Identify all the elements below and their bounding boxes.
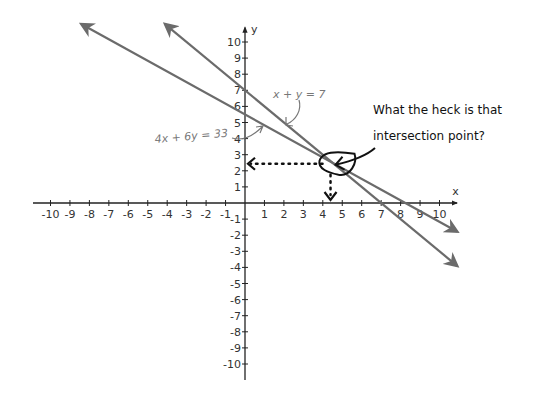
- y-tick-label: -10: [223, 358, 241, 371]
- x-tick-label: -4: [162, 208, 173, 221]
- y-tick-label: -2: [230, 229, 241, 242]
- chart: x y -10-9-8-7-6-5-4-3-2-112345678910 109…: [0, 0, 538, 405]
- x-tick-label: 2: [280, 208, 287, 221]
- y-tick-label: -4: [230, 261, 241, 274]
- y-tick-label: -8: [230, 326, 241, 339]
- series-line-4x-6y-33: [82, 24, 457, 231]
- x-axis-label: x: [452, 185, 459, 198]
- x-tick-label: -9: [64, 208, 75, 221]
- callout-text-line1: What the heck is that: [373, 103, 502, 117]
- annotations: 4x + 6y = 33 x + y = 7 What the heck is …: [154, 88, 502, 175]
- y-tick-label: -3: [230, 245, 241, 258]
- y-tick-label: -6: [230, 294, 241, 307]
- y-axis-label: y: [251, 23, 258, 36]
- y-tick-label: 9: [234, 52, 241, 65]
- y-tick-label: -9: [230, 342, 241, 355]
- series-lines: [82, 24, 457, 266]
- y-tick-label: 5: [234, 117, 241, 130]
- y-tick-label: -7: [230, 310, 241, 323]
- x-tick-label: -2: [201, 208, 212, 221]
- axes: x y: [33, 23, 459, 380]
- x-tick-label: 1: [261, 208, 268, 221]
- y-tick-label: 1: [234, 181, 241, 194]
- equation-label-4x-6y-33: 4x + 6y = 33: [154, 127, 228, 146]
- x-tick-label: 5: [339, 208, 346, 221]
- x-tick-label: -5: [142, 208, 153, 221]
- x-tick-label: -3: [181, 208, 192, 221]
- y-tick-label: 8: [234, 68, 241, 81]
- y-tick-label: -5: [230, 278, 241, 291]
- x-tick-label: -7: [103, 208, 114, 221]
- x-tick-label: -8: [84, 208, 95, 221]
- y-tick-label: 10: [227, 36, 241, 49]
- y-tick-label: 3: [234, 149, 241, 162]
- callout-text-line2: intersection point?: [373, 129, 485, 143]
- x-tick-label: 6: [358, 208, 365, 221]
- x-tick-label: 3: [300, 208, 307, 221]
- equation-label-x-y-7: x + y = 7: [272, 88, 325, 101]
- x-tick-label: -10: [42, 208, 60, 221]
- x-tick-label: -6: [123, 208, 134, 221]
- y-tick-label: 2: [234, 165, 241, 178]
- equation-label-arrow: [286, 100, 300, 126]
- intersection-guides: [248, 158, 337, 200]
- series-line-x-y-7: [165, 24, 457, 266]
- y-tick-label: -1: [230, 213, 241, 226]
- x-tick-label: 7: [378, 208, 385, 221]
- x-tick-label: 4: [319, 208, 326, 221]
